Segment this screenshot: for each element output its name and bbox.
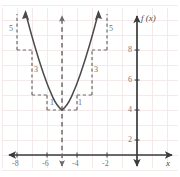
y-tick-label-8: 8	[128, 46, 132, 54]
y-tick-label-2: 2	[128, 136, 132, 144]
right-step-label-3: 3	[94, 66, 98, 74]
x-tick-label-minus2: -2	[102, 160, 109, 168]
right-step-label-5: 5	[109, 25, 113, 33]
left-step-label-1: 1	[50, 99, 54, 107]
left-step-label-5: 5	[9, 25, 13, 33]
x-axis-label: x	[166, 159, 170, 167]
x-tick-label-minus8: -8	[12, 160, 19, 168]
y-axis-label: f (x)	[141, 14, 156, 22]
right-step-label-1: 1	[78, 99, 82, 107]
graph-figure: -8 -6 -4 -2 8 6 4 2 x f (x) 1 3 5 1 3 5	[0, 0, 180, 177]
x-tick-label-minus4: -4	[72, 160, 79, 168]
grid-lines	[2, 5, 178, 170]
y-tick-label-6: 6	[128, 76, 132, 84]
coordinate-plane	[0, 0, 180, 177]
left-step-label-3: 3	[34, 66, 38, 74]
y-tick-label-4: 4	[128, 106, 132, 114]
x-tick-label-minus6: -6	[42, 160, 49, 168]
